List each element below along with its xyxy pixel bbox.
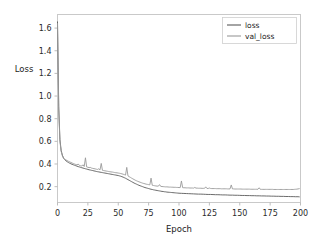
- y-tick-label: 1.6: [39, 24, 52, 33]
- x-tick-label: 175: [262, 209, 277, 218]
- x-tick-label: 25: [83, 209, 93, 218]
- y-tick-label: 1.0: [39, 92, 52, 101]
- x-axis-tick-labels: 0255075100125150175200: [55, 209, 308, 218]
- legend[interactable]: loss val_loss: [223, 18, 297, 44]
- legend-label-loss: loss: [245, 21, 260, 30]
- y-tick-label: 1.2: [39, 69, 52, 78]
- y-tick-label: 0.8: [39, 115, 52, 124]
- x-tick-label: 125: [202, 209, 217, 218]
- x-tick-label: 100: [171, 209, 186, 218]
- x-tick-label: 200: [293, 209, 308, 218]
- legend-label-val-loss: val_loss: [245, 32, 274, 41]
- data-series-group: [58, 22, 300, 197]
- y-axis-title: Loss: [15, 64, 34, 74]
- y-tick-label: 0.6: [39, 137, 52, 146]
- x-tick-label: 50: [113, 209, 123, 218]
- loss-curve-chart: 0255075100125150175200 0.20.40.60.81.01.…: [0, 0, 321, 250]
- series-line-val-loss: [58, 24, 300, 190]
- y-tick-label: 1.4: [39, 47, 52, 56]
- y-axis-tick-labels: 0.20.40.60.81.01.21.41.6: [39, 24, 52, 192]
- x-tick-label: 75: [144, 209, 154, 218]
- x-tick-label: 150: [232, 209, 247, 218]
- x-tick-label: 0: [55, 209, 60, 218]
- figure-container: 0255075100125150175200 0.20.40.60.81.01.…: [0, 0, 321, 250]
- x-axis-title: Epoch: [166, 224, 192, 234]
- series-line-loss: [58, 22, 300, 197]
- y-tick-label: 0.4: [39, 160, 52, 169]
- y-tick-label: 0.2: [39, 183, 52, 192]
